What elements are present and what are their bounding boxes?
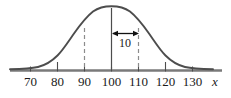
axis-label-120: 120 [156, 74, 176, 89]
axis-label-100: 100 [102, 74, 122, 89]
x-axis-variable-label: x [211, 74, 218, 89]
arrow-head-left-icon [112, 31, 118, 36]
bell-curve-svg: 10 70 80 90 100 110 120 130 x [0, 0, 231, 98]
std-dev-value-label: 10 [119, 36, 131, 50]
bell-curve-figure: 10 70 80 90 100 110 120 130 x [0, 0, 231, 98]
axis-label-130: 130 [183, 74, 203, 89]
axis-label-110: 110 [129, 74, 148, 89]
axis-label-80: 80 [51, 74, 64, 89]
axis-tick-labels: 70 80 90 100 110 120 130 [24, 74, 202, 89]
axis-label-90: 90 [78, 74, 91, 89]
std-dev-arrow-annotation: 10 [112, 31, 139, 50]
axis-label-70: 70 [24, 74, 37, 89]
